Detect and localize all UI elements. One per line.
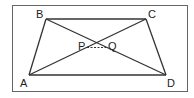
label-q: Q [108, 40, 117, 52]
trapezium-diagram: B C A D P Q [0, 0, 194, 98]
side-ab [29, 19, 46, 75]
label-p: P [78, 40, 85, 52]
label-c: C [148, 8, 156, 20]
label-d: D [167, 77, 175, 89]
label-b: B [36, 8, 43, 20]
label-a: A [20, 77, 28, 89]
